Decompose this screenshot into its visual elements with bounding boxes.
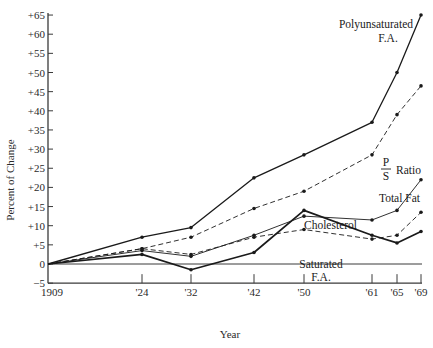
data-point-marker xyxy=(419,13,423,17)
data-point-marker xyxy=(189,253,193,257)
y-axis-title: Percent of Change xyxy=(4,139,16,220)
data-point-marker xyxy=(395,233,399,237)
y-tick-label: +35 xyxy=(28,124,46,136)
y-tick-label: +40 xyxy=(28,105,46,117)
x-tick-label: '61 xyxy=(366,286,379,298)
data-point-marker xyxy=(419,84,423,88)
data-point-marker xyxy=(189,235,193,239)
data-point-marker xyxy=(419,178,423,182)
series-p-s-ratio xyxy=(48,84,423,264)
data-point-marker xyxy=(252,176,256,180)
label-ps-ratio: Ratio xyxy=(396,164,421,176)
series-line xyxy=(48,180,421,264)
series-total-fat xyxy=(48,178,423,264)
y-tick-label: +65 xyxy=(28,9,46,21)
data-point-marker xyxy=(419,210,423,214)
x-tick-label: 1909 xyxy=(41,286,64,298)
data-point-marker xyxy=(370,237,374,241)
label-saturated-line1: Saturated xyxy=(299,258,343,270)
data-point-marker xyxy=(395,209,399,213)
y-tick-label: +50 xyxy=(28,67,46,79)
x-axis: 1909'24'32'42'50'61'65'69 xyxy=(41,274,428,298)
y-tick-label: +60 xyxy=(28,28,46,40)
data-point-marker xyxy=(252,235,256,239)
series-line xyxy=(48,15,421,264)
y-tick-label: +10 xyxy=(28,220,46,232)
x-tick-label: '69 xyxy=(415,286,428,298)
data-point-marker xyxy=(370,218,374,222)
y-tick-label: +20 xyxy=(28,181,46,193)
data-point-marker xyxy=(302,209,306,213)
series-polyunsaturated-f-a xyxy=(48,13,423,264)
label-saturated-line2: F.A. xyxy=(311,271,331,283)
series-cholesterol xyxy=(48,209,423,272)
x-axis-title: Year xyxy=(220,328,241,340)
data-point-marker xyxy=(395,71,399,75)
data-point-marker xyxy=(370,233,374,237)
series-layer xyxy=(48,13,423,271)
label-ps-numerator: P xyxy=(383,156,389,168)
label-cholesterol: Cholesterol xyxy=(304,219,357,231)
label-polyunsaturated-line2: F.A. xyxy=(378,32,398,44)
data-point-marker xyxy=(302,153,306,157)
data-point-marker xyxy=(189,226,193,230)
x-tick-label: '65 xyxy=(391,286,404,298)
label-ps-denominator: S xyxy=(383,170,389,182)
data-point-marker xyxy=(370,120,374,124)
y-tick-label: +55 xyxy=(28,47,46,59)
x-tick-label: '24 xyxy=(136,286,149,298)
data-point-marker xyxy=(370,153,374,157)
data-point-marker xyxy=(140,253,144,257)
data-point-marker xyxy=(252,207,256,211)
data-point-marker xyxy=(395,241,399,245)
x-tick-label: '50 xyxy=(298,286,311,298)
y-tick-label: +15 xyxy=(28,201,46,213)
data-point-marker xyxy=(189,268,193,272)
y-axis: +65+60+55+50+45+40+35+30+25+20+15+10+50−… xyxy=(28,9,53,289)
label-polyunsaturated-line1: Polyunsaturated xyxy=(339,18,413,31)
x-tick-label: '32 xyxy=(185,286,198,298)
y-tick-label: +45 xyxy=(28,86,46,98)
data-point-marker xyxy=(140,247,144,251)
y-tick-label: +25 xyxy=(28,162,46,174)
label-total-fat: Total Fat xyxy=(379,192,421,204)
data-point-marker xyxy=(419,230,423,234)
x-tick-label: '42 xyxy=(248,286,261,298)
data-point-marker xyxy=(302,214,306,218)
data-point-marker xyxy=(252,251,256,255)
data-point-marker xyxy=(302,189,306,193)
data-point-marker xyxy=(140,235,144,239)
y-tick-label: +5 xyxy=(33,239,45,251)
y-tick-label: +30 xyxy=(28,143,46,155)
y-tick-label: 0 xyxy=(40,258,46,270)
series-line xyxy=(48,86,421,264)
line-chart: +65+60+55+50+45+40+35+30+25+20+15+10+50−… xyxy=(0,0,433,348)
data-point-marker xyxy=(395,113,399,117)
